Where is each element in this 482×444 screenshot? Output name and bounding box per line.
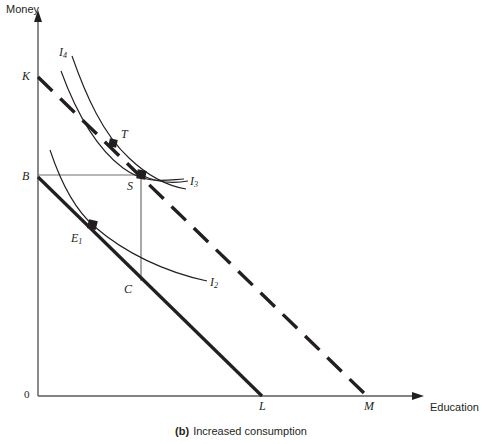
budget-line-new-dashed — [38, 77, 367, 396]
point-label-S: S — [127, 180, 133, 192]
point-label-K: K — [22, 70, 30, 82]
origin-label: 0 — [24, 389, 30, 400]
indifference-curve-plot — [0, 0, 482, 444]
point-label-B: B — [22, 170, 29, 182]
point-marker-T — [108, 138, 117, 147]
budget-line-original — [38, 177, 262, 396]
point-label-E1-sub: 1 — [78, 237, 82, 246]
indifference-curve-I4 — [72, 56, 186, 189]
curve-label-I4: I4 — [59, 46, 67, 58]
indifference-curve-I3 — [61, 71, 184, 180]
curve-label-I3: I3 — [190, 175, 198, 187]
x-axis-title: Education — [430, 402, 479, 413]
point-label-E1: E1 — [71, 232, 82, 244]
curve-label-I2: I2 — [210, 276, 218, 288]
point-label-C: C — [124, 283, 132, 295]
figure-increased-consumption: Money Education 0 K B T S C L M E1 I4 I3… — [0, 0, 482, 444]
curve-label-I3-sub: 3 — [194, 180, 198, 189]
indifference-curve-I2 — [50, 150, 207, 281]
caption-text: Increased consumption — [193, 425, 307, 437]
y-axis-title: Money — [6, 4, 39, 15]
caption-tag: (b) — [175, 425, 189, 437]
curve-label-I2-sub: 2 — [214, 281, 218, 290]
point-label-T: T — [121, 128, 128, 140]
y-axis — [34, 10, 42, 396]
point-label-M: M — [364, 400, 374, 412]
figure-caption: (b)Increased consumption — [0, 425, 482, 437]
curve-label-I4-sub: 4 — [63, 51, 67, 60]
point-label-L: L — [259, 400, 266, 412]
point-marker-S — [136, 169, 146, 179]
